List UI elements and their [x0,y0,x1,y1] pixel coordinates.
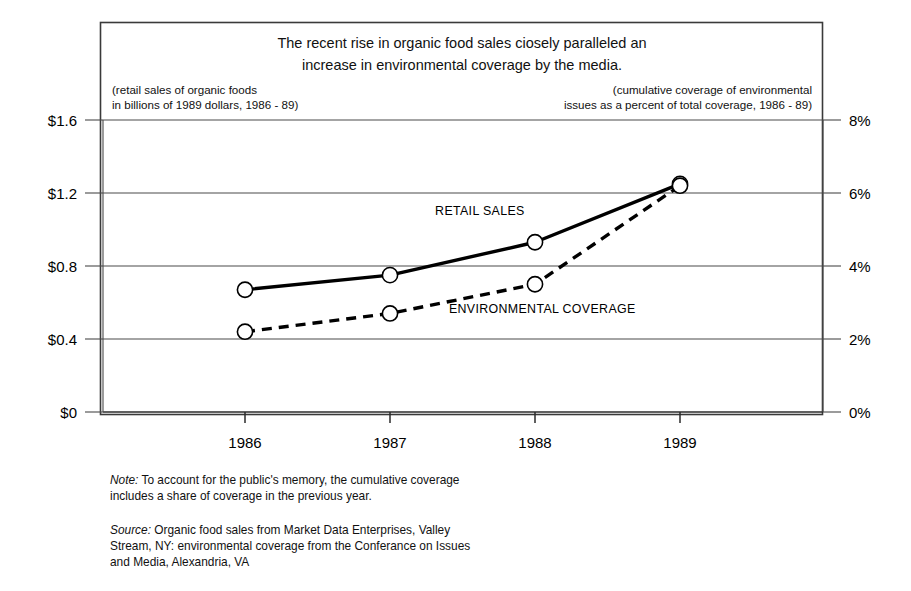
data-point-2-1987 [382,306,397,321]
note-line-1-text: To account for the public's memory, the … [138,473,459,487]
x-axis-label-1989: 1989 [663,434,696,451]
y-axis-left-label-$0.8: $0.8 [48,258,77,275]
series-annotation-1: RETAIL SALES [435,204,525,218]
x-axis-label-1986: 1986 [228,434,261,451]
data-point-1-1987 [382,268,397,283]
data-point-2-1986 [237,324,252,339]
source-line-1: Source: Organic food sales from Market D… [110,523,450,537]
note-lead-label: Note: [110,473,138,487]
subtitle-left-line-2: in billions of 1989 dollars, 1986 - 89) [112,98,298,111]
y-axis-right-label-8%: 8% [849,112,871,129]
subtitle-right-line-1: (cumulative coverage of environmental [613,83,812,96]
series-annotation-2: ENVIRONMENTAL COVERAGE [449,302,636,316]
subtitle-right-line-2: issues as a percent of total coverage, 1… [564,98,812,111]
x-axis-label-1987: 1987 [373,434,406,451]
y-axis-right-label-0%: 0% [849,404,871,421]
source-lead-label: Source: [110,523,151,537]
y-axis-right-label-6%: 6% [849,185,871,202]
note-line-2: includes a share of coverage in the prev… [110,489,372,503]
chart-title-line-1: The recent rise in organic food sales ci… [277,35,646,51]
source-line-2: Stream, NY: environmental coverage from … [110,539,470,553]
data-point-2-1988 [527,277,542,292]
chart-figure: The recent rise in organic food sales ci… [0,0,911,591]
chart-title-line-2: increase in environmental coverage by th… [302,57,622,73]
data-point-1-1988 [527,235,542,250]
subtitle-left-line-1: (retail sales of organic foods [112,83,257,96]
source-line-3: and Media, Alexandria, VA [110,555,249,569]
y-axis-left-label-$1.2: $1.2 [48,185,77,202]
y-axis-left-label-$0.4: $0.4 [48,331,77,348]
note-line-1: Note: To account for the public's memory… [110,473,460,487]
data-point-1-1986 [237,282,252,297]
source-line-1-text: Organic food sales from Market Data Ente… [151,523,450,537]
y-axis-left-label-$1.6: $1.6 [48,112,77,129]
y-axis-left-label-$0: $0 [60,404,77,421]
y-axis-right-label-4%: 4% [849,258,871,275]
x-axis-label-1988: 1988 [518,434,551,451]
data-point-2-1989 [672,178,687,193]
y-axis-right-label-2%: 2% [849,331,871,348]
